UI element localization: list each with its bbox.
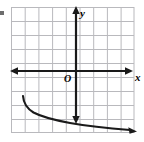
y-axis [72,6,79,124]
coordinate-graph-figure: y x O [0,0,144,142]
graph-svg: y x O [0,0,144,142]
x-axis [10,67,133,74]
curve-arrowhead [128,127,137,134]
y-axis-label: y [78,7,85,19]
origin-label: O [64,73,71,84]
x-axis-right-arrowhead [125,67,133,74]
edge-marker [0,11,4,15]
x-axis-label: x [134,71,141,83]
